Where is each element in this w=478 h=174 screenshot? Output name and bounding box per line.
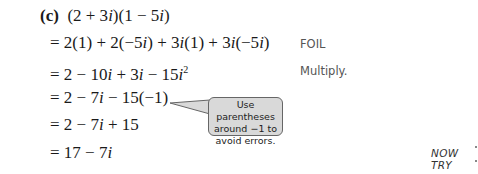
- step-line-1: = 2(1) + 2(−5i) + 3i(1) + 3i(−5i): [50, 33, 270, 53]
- callout-pointer-icon: [170, 100, 212, 120]
- step-part: = 2 − 10: [50, 65, 107, 84]
- step-part: = 2(1) + 2(−5: [50, 33, 143, 52]
- callout-note: Use parentheses around −1 to avoid error…: [208, 97, 283, 136]
- step-part: ) + 3: [147, 33, 179, 52]
- expr-part: (2 + 3: [67, 6, 108, 25]
- step-part: i: [107, 143, 112, 162]
- step-line-2: = 2 − 10i + 3i − 15i2: [50, 60, 188, 85]
- step-line-3: = 2 − 7i − 15(−1): [50, 88, 168, 108]
- expr-part: ): [164, 6, 170, 25]
- step-part: (−5: [235, 33, 259, 52]
- step-line-5: = 17 − 7i: [50, 143, 112, 163]
- exponent: 2: [183, 64, 188, 75]
- now-try-label: NOW TRY: [431, 147, 478, 171]
- callout-line: around −1 to: [209, 123, 282, 135]
- callout-line: avoid errors.: [209, 135, 282, 147]
- step-annotation-multiply: Multiply.: [300, 63, 347, 79]
- now-try-mark-icon: [475, 146, 477, 148]
- step-annotation-foil: FOIL: [300, 36, 325, 52]
- step-part: − 15(−1): [104, 88, 169, 107]
- problem-label: (c): [40, 6, 59, 25]
- step-part: + 15: [104, 115, 139, 134]
- step-part: (1) + 3: [184, 33, 230, 52]
- expr-part: )(1 − 5: [113, 6, 159, 25]
- step-part: = 2 − 7: [50, 88, 99, 107]
- callout-line: Use parentheses: [209, 99, 282, 123]
- step-part: = 2 − 7: [50, 115, 99, 134]
- step-line-4: = 2 − 7i + 15: [50, 115, 139, 135]
- now-try-mark-icon: [475, 160, 477, 162]
- step-part: + 3: [112, 65, 139, 84]
- problem-line: (c) (2 + 3i)(1 − 5i): [40, 6, 170, 26]
- step-part: = 17 − 7: [50, 143, 107, 162]
- step-part: ): [264, 33, 270, 52]
- step-part: − 15: [144, 65, 179, 84]
